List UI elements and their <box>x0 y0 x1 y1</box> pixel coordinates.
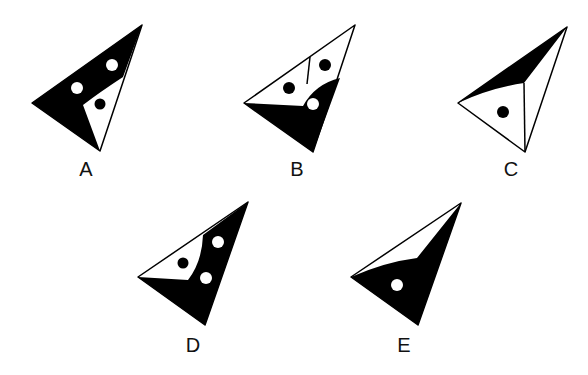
figure-a-black-region <box>32 25 142 151</box>
figure-b-black-dot-1 <box>319 59 331 71</box>
figure-b-white-circle <box>307 98 319 110</box>
figure-a-white-circle-1 <box>106 59 118 71</box>
figure-c-black-dot <box>497 106 509 118</box>
label-b: B <box>290 159 303 179</box>
figure-b <box>244 25 355 152</box>
figure-e-white-circle <box>391 279 403 291</box>
label-e: E <box>397 335 410 355</box>
figure-d <box>138 202 248 325</box>
figure-d-black-dot <box>178 258 189 269</box>
figure-d-white-circle-1 <box>212 236 224 248</box>
figure-c <box>458 27 567 152</box>
puzzle-diagram <box>0 0 588 375</box>
label-d: D <box>186 335 200 355</box>
figure-d-white-circle-2 <box>200 272 212 284</box>
label-c: C <box>504 159 518 179</box>
label-a: A <box>79 159 92 179</box>
figure-b-black-dot-2 <box>283 82 295 94</box>
figure-c-divider-line <box>524 83 525 152</box>
figure-e <box>351 203 461 325</box>
figure-a <box>32 25 142 151</box>
figure-a-white-circle-2 <box>71 82 83 94</box>
figure-a-black-dot <box>95 99 106 110</box>
